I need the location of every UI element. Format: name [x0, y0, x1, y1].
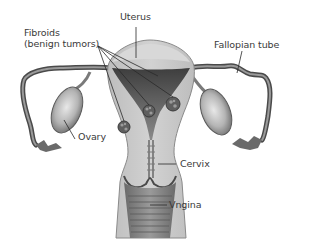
vagina [124, 182, 176, 238]
left-ovary [45, 83, 89, 138]
ovary-label: Ovary [78, 131, 106, 142]
right-ovary [194, 85, 238, 140]
right-fimbriae [232, 136, 262, 150]
fibroid-1 [118, 121, 130, 133]
left-fimbriae [36, 140, 62, 152]
fibroids-label: Fibroids [24, 27, 60, 38]
fibroid-3 [166, 97, 180, 111]
cervix-label: Cervix [180, 158, 210, 169]
fibroid-2 [143, 105, 155, 117]
uterus-label: Uterus [120, 11, 151, 22]
vagina-label: Vngina [169, 199, 201, 210]
fallopian-tube-label: Fallopian tube [214, 39, 279, 50]
fibroids-sublabel: (benign tumors) [24, 38, 99, 49]
